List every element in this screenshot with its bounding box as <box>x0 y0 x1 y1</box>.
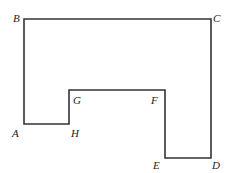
vertex-label-b: B <box>13 12 20 24</box>
polygon-diagram: ABCDEFGH <box>0 0 230 173</box>
vertex-label-f: F <box>150 94 158 106</box>
vertex-label-h: H <box>70 127 80 139</box>
vertex-label-c: C <box>213 12 221 24</box>
vertex-label-a: A <box>11 127 19 139</box>
polygon-outline <box>24 19 211 158</box>
vertex-label-g: G <box>73 94 81 106</box>
vertex-label-e: E <box>152 159 160 171</box>
vertex-label-d: D <box>211 159 220 171</box>
